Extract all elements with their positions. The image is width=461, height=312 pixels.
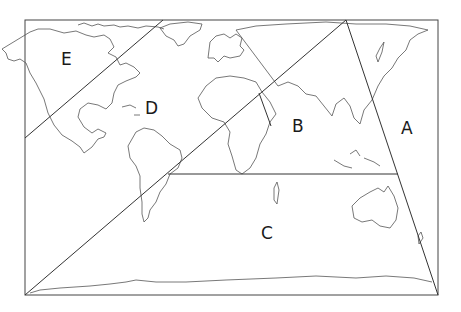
line-main-diagonal [25, 20, 346, 295]
line-a-boundary [346, 20, 438, 295]
map-frame [25, 20, 438, 295]
world-map-diagram: A B C D E [0, 0, 461, 312]
zone-division-lines [25, 20, 438, 295]
zone-label-c: C [261, 225, 273, 242]
map-svg [0, 0, 461, 312]
zone-label-a: A [401, 120, 413, 137]
indonesia [334, 150, 380, 168]
africa [198, 76, 276, 174]
zone-label-d: D [145, 100, 158, 117]
australia [352, 186, 398, 228]
zone-label-e: E [61, 51, 72, 68]
antarctica [30, 276, 432, 293]
madagascar [274, 182, 279, 204]
caribbean [122, 105, 140, 115]
line-red-sea [259, 93, 271, 126]
europe [208, 34, 244, 62]
zone-label-b: B [292, 118, 304, 135]
south-america [128, 128, 182, 222]
arctic-islands [78, 23, 164, 29]
greenland [160, 22, 202, 46]
japan [376, 42, 384, 62]
north-america [2, 29, 140, 153]
line-e-boundary [25, 20, 163, 138]
